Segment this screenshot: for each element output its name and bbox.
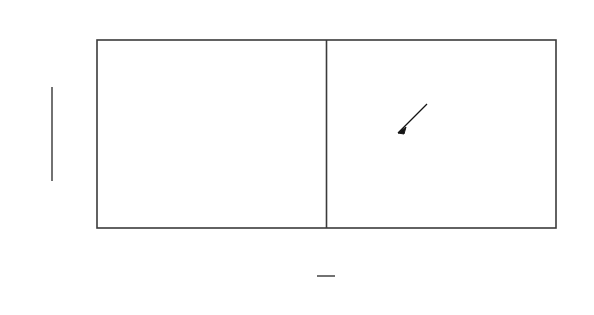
figure-container <box>0 0 594 315</box>
mixing-length-velocity-profile-chart <box>0 0 594 315</box>
annotation-group <box>398 104 427 134</box>
annotation-arrow-head <box>398 127 406 134</box>
annotation-arrow-line <box>398 104 427 133</box>
